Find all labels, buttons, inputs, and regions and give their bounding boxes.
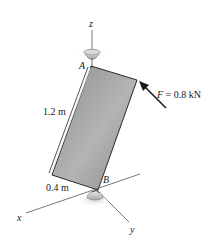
plate (49, 66, 137, 190)
point-b-label: B (103, 174, 109, 185)
diagram-canvas: z x y A B F = 0.8 kN 1.2 m 0.4 m (0, 0, 210, 247)
point-a-label: A (78, 60, 86, 71)
z-axis-label: z (88, 18, 93, 29)
force-value: = 0.8 kN (163, 89, 201, 100)
y-axis-label: y (129, 224, 135, 235)
width-dimension-label: 0.4 m (46, 182, 69, 193)
height-dimension-label: 1.2 m (43, 106, 66, 117)
z-axis: z (88, 18, 93, 52)
lower-bearing (77, 190, 113, 207)
force-label: F = 0.8 kN (156, 89, 201, 100)
x-axis-label: x (16, 212, 22, 223)
